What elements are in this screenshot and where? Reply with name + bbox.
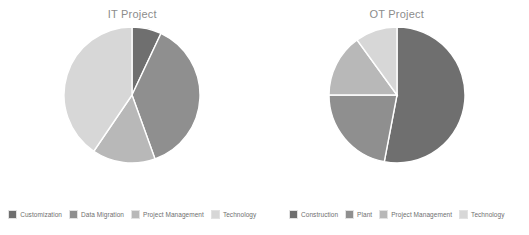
legend-swatch-project-management — [379, 210, 388, 219]
legend-label-technology: Technology — [471, 210, 504, 219]
legend-item-project-management[interactable]: Project Management — [131, 210, 204, 219]
legend-item-construction[interactable]: Construction — [289, 210, 338, 219]
legend-label-technology: Technology — [223, 210, 256, 219]
chart-panel-ot-project: OT Project Construction Plant Project Ma… — [265, 0, 529, 235]
pie-svg-ot-project — [328, 26, 466, 164]
legend-it-project: Customization Data Migration Project Man… — [0, 210, 265, 219]
legend-item-plant[interactable]: Plant — [345, 210, 372, 219]
legend-item-technology[interactable]: Technology — [459, 210, 504, 219]
pie-chart-it-project — [63, 26, 201, 164]
legend-swatch-technology — [459, 210, 468, 219]
legend-swatch-customization — [8, 210, 17, 219]
legend-label-data-migration: Data Migration — [81, 210, 124, 219]
legend-swatch-construction — [289, 210, 298, 219]
chart-panel-it-project: IT Project Customization Data Migration … — [0, 0, 265, 235]
legend-label-plant: Plant — [357, 210, 372, 219]
legend-label-construction: Construction — [301, 210, 338, 219]
legend-label-customization: Customization — [20, 210, 62, 219]
legend-swatch-project-management — [131, 210, 140, 219]
dual-pie-chart-figure: IT Project Customization Data Migration … — [0, 0, 529, 235]
legend-label-project-management: Project Management — [391, 210, 452, 219]
page-title-ot-project: OT Project — [370, 7, 424, 21]
legend-swatch-data-migration — [69, 210, 78, 219]
legend-item-technology[interactable]: Technology — [211, 210, 256, 219]
legend-ot-project: Construction Plant Project Management Te… — [265, 210, 529, 219]
legend-label-project-management: Project Management — [143, 210, 204, 219]
legend-item-data-migration[interactable]: Data Migration — [69, 210, 124, 219]
legend-swatch-technology — [211, 210, 220, 219]
legend-swatch-plant — [345, 210, 354, 219]
legend-item-customization[interactable]: Customization — [8, 210, 62, 219]
legend-item-project-management[interactable]: Project Management — [379, 210, 452, 219]
pie-slice[interactable] — [329, 95, 397, 162]
pie-chart-ot-project — [328, 26, 466, 164]
page-title-it-project: IT Project — [108, 7, 157, 21]
pie-svg-it-project — [63, 26, 201, 164]
